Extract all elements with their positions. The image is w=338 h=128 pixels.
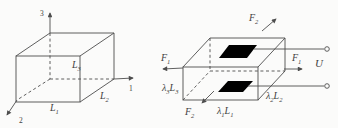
dim-lambda2-L2-label: λ2L2: [265, 90, 283, 103]
force-f2-bottom-label: F2: [184, 106, 195, 119]
force-f1-left-label: F1: [160, 52, 170, 65]
force-f1-left-arrow: [163, 68, 183, 69]
figure-canvas: 3 1 2 L3 L1 L2 F2 F1 F1: [0, 0, 338, 128]
piezoelectric-deformation-figure: 3 1 2 L3 L1 L2 F2 F1 F1: [0, 0, 338, 128]
top-terminal: [325, 47, 330, 52]
force-f2-top-label: F2: [248, 12, 259, 25]
loaded-plate-diagram: F2 F1 F1 F2 λ3L3 λ1L1 λ2L2 U: [160, 12, 329, 119]
axis-2-label: 2: [19, 116, 23, 125]
axis-1-arrow: [114, 78, 133, 79]
cuboid-top-face: [16, 33, 114, 56]
dim-lambda1-L1-label: λ1L1: [216, 105, 233, 118]
plate-right-face: [258, 38, 285, 100]
force-f2-bottom-arrow: [202, 91, 214, 103]
top-electrode: [219, 45, 257, 58]
force-f1-right-label: F1: [291, 52, 301, 65]
cuboid-right-face: [80, 33, 114, 102]
coordinate-cuboid-diagram: 3 1 2 L3 L1 L2: [7, 9, 133, 125]
bottom-terminal: [325, 84, 330, 89]
dim-L2-label: L2: [99, 90, 110, 103]
dim-lambda3-L3-label: λ3L3: [161, 82, 179, 95]
dim-L1-label: L1: [49, 102, 59, 115]
cuboid-front-face: [16, 56, 80, 102]
axis-2-arrow: [7, 100, 17, 115]
force-f2-top-arrow: [262, 19, 276, 31]
voltage-label: U: [315, 57, 324, 69]
bottom-electrode: [218, 81, 253, 92]
axis-1-label: 1: [129, 84, 133, 93]
axis-3-label: 3: [40, 9, 44, 18]
